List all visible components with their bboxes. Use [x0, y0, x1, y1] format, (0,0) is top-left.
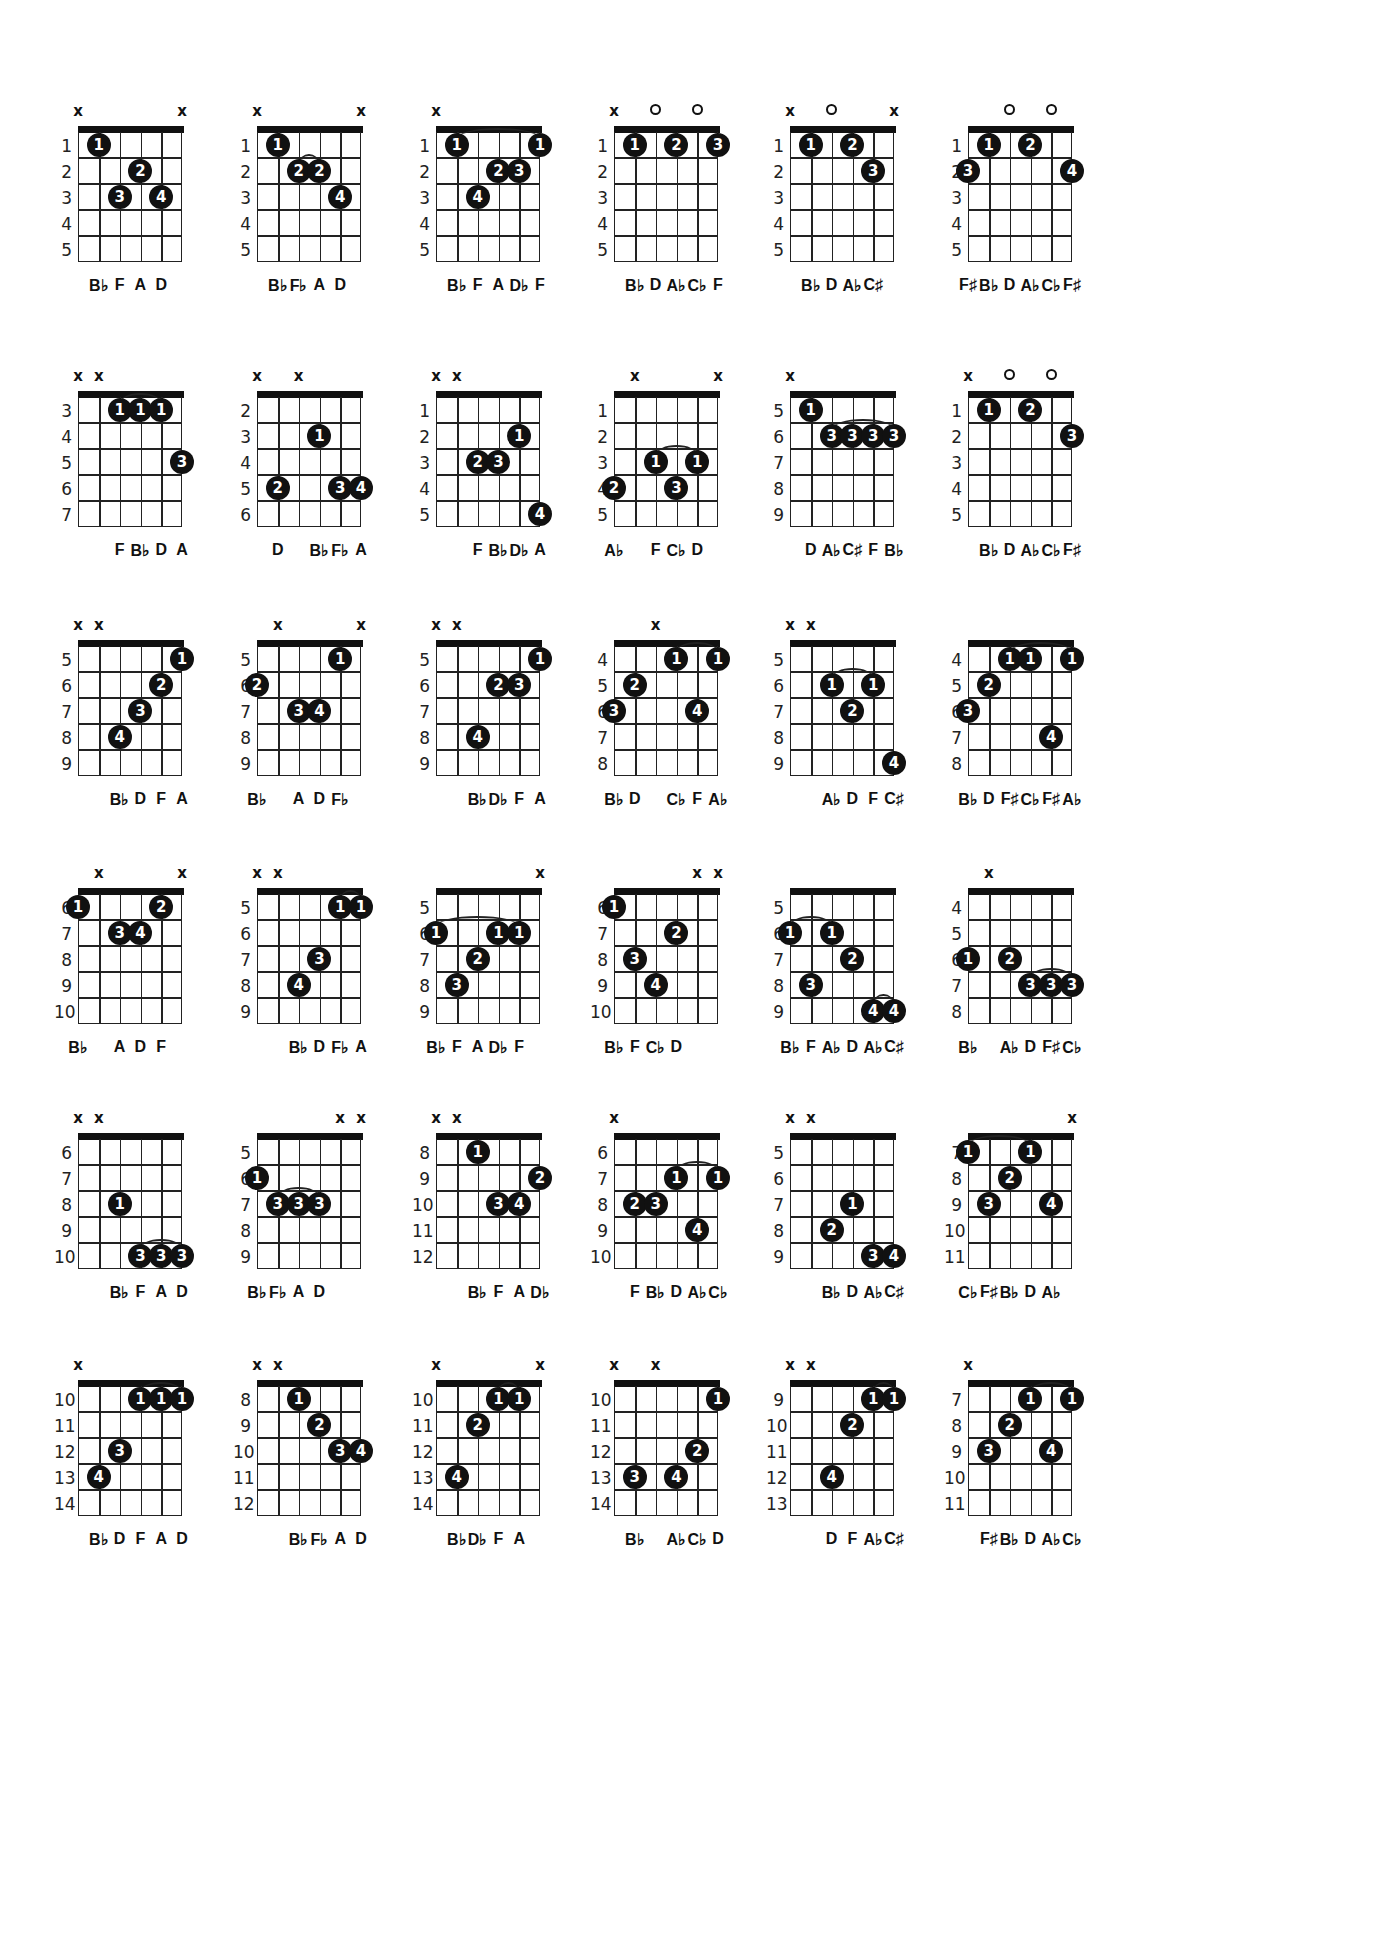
string-line — [811, 646, 813, 775]
fret-number: 10 — [590, 1002, 608, 1022]
finger-dot: 2 — [528, 1166, 552, 1190]
open-string-icon — [1004, 104, 1015, 115]
note-label: A — [167, 790, 197, 808]
string-line — [99, 894, 101, 1023]
chord-diagram: 123451234F♯B♭DA♭C♭F♯ — [944, 108, 1114, 348]
string-line — [635, 1386, 637, 1515]
fret-number: 5 — [590, 240, 608, 260]
fret-line — [258, 500, 360, 502]
fret-line — [615, 235, 717, 237]
finger-dot: 3 — [602, 699, 626, 723]
fret-number: 7 — [590, 728, 608, 748]
fret-number: 5 — [233, 479, 251, 499]
fret-line — [615, 919, 717, 921]
string-line — [99, 1139, 101, 1268]
fret-number: 1 — [590, 401, 608, 421]
note-label: F♯ — [1057, 541, 1087, 559]
fret-number: 2 — [590, 162, 608, 182]
fret-number: 8 — [412, 976, 430, 996]
fret-line — [437, 474, 539, 476]
muted-string-icon: x — [804, 1111, 818, 1125]
finger-dot: 3 — [706, 133, 730, 157]
finger-dot: 4 — [349, 476, 373, 500]
fret-line — [615, 749, 717, 751]
note-names: DB♭F♭A — [233, 541, 403, 563]
fret-number: 7 — [944, 976, 962, 996]
fret-number: 8 — [766, 479, 784, 499]
fret-number: 5 — [766, 898, 784, 918]
note-names: DA♭C♯FB♭ — [766, 541, 936, 563]
chord-diagram: 12345x123B♭DA♭C♭F♯ — [944, 373, 1114, 613]
fret-line — [791, 157, 893, 159]
fret-line — [791, 723, 893, 725]
note-label: B♭ — [953, 1038, 983, 1057]
note-names: B♭DA♭C♯ — [766, 1283, 936, 1305]
note-names: B♭ADF — [54, 1038, 224, 1060]
fret-number: 3 — [54, 188, 72, 208]
fret-number: 9 — [944, 1195, 962, 1215]
fret-number: 5 — [590, 676, 608, 696]
fret-line — [615, 1463, 717, 1465]
fret-number: 11 — [944, 1247, 962, 1267]
fret-number: 11 — [54, 1416, 72, 1436]
fret-line — [437, 971, 539, 973]
fret-line — [437, 697, 539, 699]
fret-number: 7 — [590, 1169, 608, 1189]
string-line — [811, 1386, 813, 1515]
finger-dot: 3 — [977, 1439, 1001, 1463]
muted-string-icon: x — [804, 618, 818, 632]
fret-number: 13 — [412, 1468, 430, 1488]
fret-number: 9 — [766, 754, 784, 774]
fret-number: 9 — [233, 1247, 251, 1267]
note-names: B♭F♭AD — [233, 276, 403, 298]
finger-dot: 4 — [87, 1465, 111, 1489]
note-names: B♭ADF♭ — [233, 790, 403, 812]
fret-number: 8 — [590, 754, 608, 774]
muted-string-icon: x — [450, 369, 464, 383]
fret-number: 7 — [412, 702, 430, 722]
note-label: C♯ — [879, 1530, 909, 1548]
fret-line — [615, 1411, 717, 1413]
fret-number: 4 — [590, 650, 608, 670]
finger-dot: 2 — [820, 1218, 844, 1242]
fret-line — [791, 1463, 893, 1465]
fret-line — [615, 997, 717, 999]
fret-line — [258, 919, 360, 921]
finger-dot: 3 — [623, 1465, 647, 1489]
fret-number: 4 — [412, 479, 430, 499]
fret-line — [79, 697, 181, 699]
finger-dot: 3 — [956, 159, 980, 183]
note-label: B♭ — [242, 790, 272, 809]
string-line — [832, 132, 834, 261]
finger-dot: 4 — [1039, 1192, 1063, 1216]
string-line — [499, 132, 501, 261]
muted-string-icon: x — [533, 1358, 547, 1372]
fret-number: 7 — [766, 453, 784, 473]
fret-number: 10 — [944, 1468, 962, 1488]
fret-line — [969, 1489, 1071, 1491]
finger-dot: 4 — [1039, 725, 1063, 749]
finger-dot: 1 — [977, 398, 1001, 422]
fret-line — [258, 474, 360, 476]
fret-line — [437, 448, 539, 450]
finger-dot: 1 — [956, 947, 980, 971]
open-string-icon — [692, 104, 703, 115]
fret-number: 5 — [766, 240, 784, 260]
muted-string-icon: x — [429, 104, 443, 118]
finger-dot: 2 — [149, 673, 173, 697]
finger-dot: 1 — [245, 1166, 269, 1190]
finger-dot: 2 — [602, 476, 626, 500]
muted-string-icon: x — [292, 369, 306, 383]
fret-number: 7 — [54, 924, 72, 944]
fret-number: 12 — [412, 1247, 430, 1267]
note-names: B♭DA♭C♭F — [590, 276, 760, 298]
chord-diagram: 34567xx1113FB♭DA — [54, 373, 224, 613]
fret-number: 10 — [412, 1390, 430, 1410]
fret-number: 9 — [233, 1416, 251, 1436]
finger-dot: 4 — [882, 751, 906, 775]
fret-line — [258, 235, 360, 237]
string-line — [832, 397, 834, 526]
muted-string-icon: x — [783, 618, 797, 632]
finger-dot: 3 — [170, 450, 194, 474]
fret-line — [437, 1164, 539, 1166]
